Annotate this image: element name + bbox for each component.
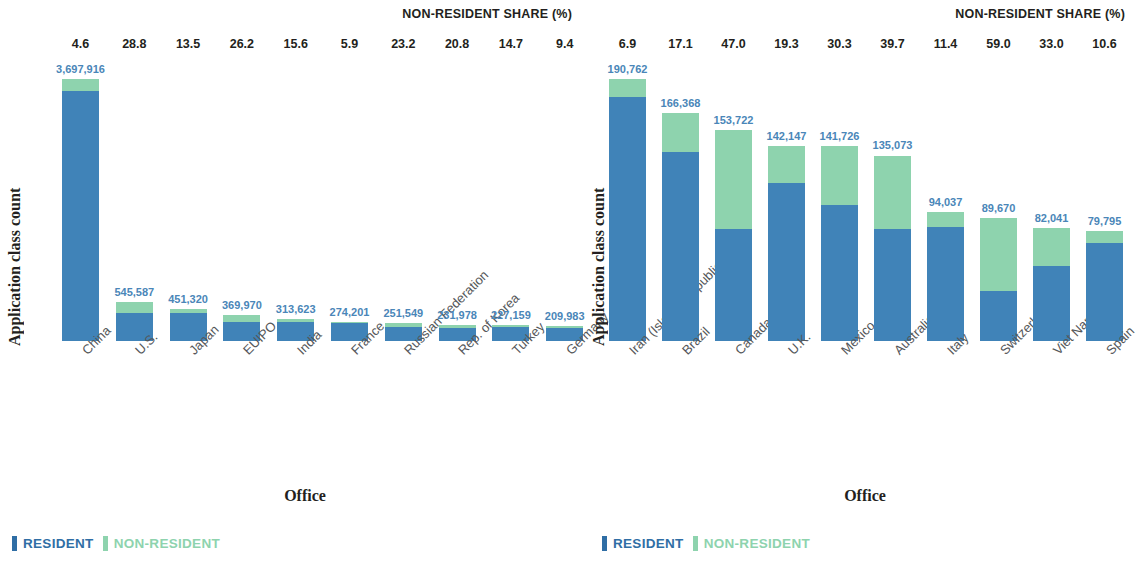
- legend-label-non-resident: NON-RESIDENT: [114, 536, 220, 551]
- bar-segment-non-resident: [223, 315, 260, 322]
- bar-value-label: 79,795: [1065, 215, 1139, 227]
- bar-segment-non-resident: [874, 156, 911, 230]
- legend-swatch-non-resident-icon: [103, 536, 108, 551]
- bar-segment-non-resident: [1086, 231, 1123, 243]
- legend-item-resident[interactable]: RESIDENT: [12, 536, 94, 551]
- bar-value-label: 190,762: [588, 63, 668, 75]
- legend-item-non-resident[interactable]: NON-RESIDENT: [693, 536, 810, 551]
- bar-segment-non-resident: [1033, 228, 1070, 265]
- chart-panel-left: NON-RESIDENT SHARE (%) 4.628.813.526.215…: [0, 0, 580, 564]
- legend-item-resident[interactable]: RESIDENT: [602, 536, 684, 551]
- bar-segment-non-resident: [980, 218, 1017, 291]
- x-axis-label-right: Office: [620, 487, 1110, 505]
- bar-segment-non-resident: [927, 212, 964, 227]
- legend-label-resident: RESIDENT: [23, 536, 94, 551]
- bar-segment-resident: [609, 97, 646, 341]
- stacked-bar[interactable]: [821, 146, 858, 341]
- stacked-bar[interactable]: [715, 130, 752, 341]
- bar-segment-non-resident: [277, 319, 314, 322]
- stacked-bar[interactable]: [768, 146, 805, 341]
- stacked-bar[interactable]: [980, 218, 1017, 341]
- stacked-bar[interactable]: [662, 113, 699, 341]
- bar-segment-non-resident: [821, 146, 858, 205]
- legend-label-non-resident: NON-RESIDENT: [704, 536, 810, 551]
- bar-segment-non-resident: [768, 146, 805, 184]
- bar-value-label: 153,722: [694, 114, 774, 126]
- stacked-bar[interactable]: [1033, 228, 1070, 341]
- bar-segment-resident: [821, 205, 858, 341]
- x-axis-label-left: Office: [60, 487, 550, 505]
- stacked-bar[interactable]: [874, 156, 911, 342]
- bar-segment-non-resident: [715, 130, 752, 229]
- bar-segment-non-resident: [546, 326, 583, 327]
- bar-segment-non-resident: [331, 322, 368, 323]
- stacked-bar[interactable]: [62, 79, 99, 341]
- legend-swatch-non-resident-icon: [693, 536, 698, 551]
- stacked-bar[interactable]: [1086, 231, 1123, 341]
- stacked-bar[interactable]: [927, 212, 964, 341]
- plot-area-left: 3,697,916China545,587U.S.451,320Japan369…: [0, 0, 580, 345]
- legend-swatch-resident-icon: [12, 536, 17, 551]
- bar-segment-resident: [62, 91, 99, 341]
- legend-swatch-resident-icon: [602, 536, 607, 551]
- bar-segment-resident: [715, 229, 752, 341]
- chart-panel-right: NON-RESIDENT SHARE (%) 6.917.147.019.330…: [580, 0, 1133, 564]
- bar-value-label: 135,073: [853, 139, 933, 151]
- bar-segment-resident: [1033, 266, 1070, 341]
- bar-segment-non-resident: [492, 325, 529, 327]
- bar-segment-resident: [662, 152, 699, 341]
- bar-segment-non-resident: [439, 325, 476, 328]
- bar-segment-resident: [874, 229, 911, 341]
- bar-value-label: 166,368: [641, 97, 721, 109]
- legend-item-non-resident[interactable]: NON-RESIDENT: [103, 536, 220, 551]
- legend-left: RESIDENT NON-RESIDENT: [12, 536, 220, 551]
- bar-segment-resident: [927, 227, 964, 341]
- bar-segment-non-resident: [62, 79, 99, 91]
- legend-right: RESIDENT NON-RESIDENT: [602, 536, 810, 551]
- stacked-bar[interactable]: [609, 79, 646, 341]
- plot-area-right: 190,762Iran (Islamic Republic of)166,368…: [580, 0, 1133, 345]
- bar-segment-non-resident: [385, 323, 422, 327]
- bar-segment-resident: [1086, 243, 1123, 341]
- bar-segment-resident: [768, 183, 805, 341]
- bar-value-label: 3,697,916: [41, 63, 121, 75]
- legend-label-resident: RESIDENT: [613, 536, 684, 551]
- bar-segment-non-resident: [609, 79, 646, 97]
